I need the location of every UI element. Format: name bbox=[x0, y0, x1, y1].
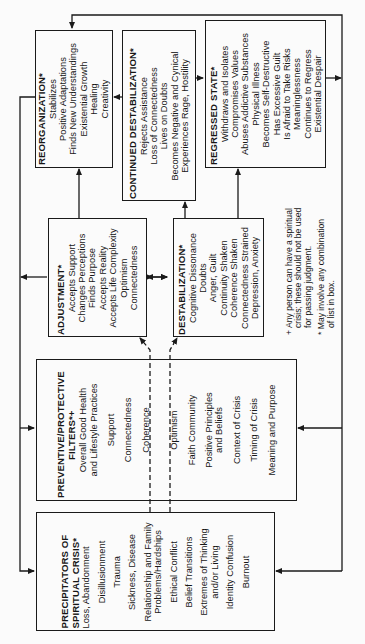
list-item: Ethical Conflict bbox=[169, 515, 179, 628]
list-item: Becomes Self-Destructive bbox=[260, 23, 270, 165]
list-item: Compromises Values bbox=[229, 23, 239, 165]
list-item: Lives on Doubts bbox=[159, 33, 169, 199]
star-note-line2: of list in box. bbox=[327, 165, 336, 335]
list-item: Faith Community bbox=[187, 362, 197, 498]
destabilization-box: DESTABILIZATION* Cognitive Dissonance Do… bbox=[173, 218, 264, 337]
list-item: Positive Principlesand Beliefs bbox=[204, 362, 225, 498]
list-item: Cognitive Dissonance bbox=[187, 221, 197, 335]
list-item: Changes Perceptions bbox=[77, 221, 87, 335]
list-item: Continuity Shaken bbox=[219, 221, 229, 335]
reorganization-title: REORGANIZATION* bbox=[37, 33, 48, 165]
adjustment-title: ADJUSTMENT* bbox=[56, 221, 67, 335]
list-item: Burnout bbox=[241, 515, 251, 628]
regressed-state-box: REGRESSED STATE* Withdraws and Isolates … bbox=[205, 20, 326, 168]
list-item: Meaninglessness bbox=[292, 23, 302, 165]
list-item: Finds Purpose bbox=[87, 221, 97, 335]
list-item: Is Afraid to Take Risks bbox=[281, 23, 291, 165]
list-item: Positive Adaptations bbox=[58, 33, 68, 165]
reorganization-box: REORGANIZATION* Stabilizes Positive Adap… bbox=[35, 30, 113, 168]
list-item: Doubts bbox=[198, 221, 208, 335]
list-item: Withdraws and Isolates bbox=[219, 23, 229, 165]
footnotes: + Any person can have a spiritual crisis… bbox=[285, 165, 336, 335]
list-item: Loss of Connectedness bbox=[149, 33, 159, 199]
precipitators-title-line2: SPIRITUAL CRISIS* bbox=[70, 537, 81, 628]
regressed-state-title: REGRESSED STATE* bbox=[208, 23, 219, 165]
precipitators-title: PRECIPITATORS OFSPIRITUAL CRISIS* bbox=[60, 515, 81, 628]
list-item: Support bbox=[106, 362, 116, 498]
filters-title: PREVENTIVE/PROTECTIVEFILTERS*+ bbox=[56, 362, 77, 498]
list-item: Disillusionment bbox=[97, 515, 107, 628]
list-item: Optimism bbox=[118, 221, 128, 335]
list-item: Extremes of Thinkingand/or Living bbox=[199, 515, 220, 628]
continued-destabilization-box: CONTINUED DESTABILIZATION* Rejects Assis… bbox=[122, 30, 196, 201]
list-item: Creativity bbox=[100, 33, 110, 165]
filters-title-line2: FILTERS*+ bbox=[66, 411, 77, 499]
list-item: Existential Growth bbox=[79, 33, 89, 165]
list-item: Meaning and Purpose bbox=[267, 362, 277, 498]
list-item: Connectedness bbox=[123, 362, 133, 498]
list-item: Relationship and FamilyProblems/Hardship… bbox=[143, 515, 164, 628]
destabilization-title: DESTABILIZATION* bbox=[177, 221, 188, 335]
list-item: Context of Crisis bbox=[232, 362, 242, 498]
list-item: Belief Transitions bbox=[184, 515, 194, 628]
list-item: Healing bbox=[90, 33, 100, 165]
list-item: Becomes Negative and Cynical bbox=[170, 33, 180, 199]
list-item: Abuses Addictive Substances bbox=[240, 23, 250, 165]
list-item: Coherence bbox=[141, 362, 151, 498]
continued-destabilization-title: CONTINUED DESTABILIZATION* bbox=[128, 33, 139, 199]
list-item: Accepts Support bbox=[66, 221, 76, 335]
list-item: Trauma bbox=[112, 515, 122, 628]
list-item: Continues to Regress bbox=[302, 23, 312, 165]
list-item: Depression, Anxiety bbox=[250, 221, 260, 335]
precipitators-title-line1: PRECIPITATORS OF bbox=[59, 534, 70, 628]
list-item: Rejects Assistance bbox=[138, 33, 148, 199]
list-item: Loss, Abandonment bbox=[81, 515, 91, 628]
filters-title-line1: PREVENTIVE/PROTECTIVE bbox=[55, 371, 66, 498]
list-item: Finds New Understandings bbox=[69, 33, 79, 165]
list-item: Connectedness bbox=[129, 221, 139, 335]
preventive-protective-filters-box: PREVENTIVE/PROTECTIVEFILTERS*+ Overall G… bbox=[36, 359, 297, 501]
plus-note-line3: for passing judgment. bbox=[304, 165, 313, 335]
list-item: Physical Illness bbox=[250, 23, 260, 165]
list-item: Optimism bbox=[169, 362, 179, 498]
list-item: Identity Confusion bbox=[225, 515, 235, 628]
precipitators-box: PRECIPITATORS OFSPIRITUAL CRISIS* Loss, … bbox=[36, 512, 275, 631]
list-item: Has Excessive Guilt bbox=[271, 23, 281, 165]
adjustment-box: ADJUSTMENT* Accepts Support Changes Perc… bbox=[48, 218, 147, 337]
list-item: Experiences Rage, Hostility bbox=[180, 33, 190, 199]
list-item: Connectedness Strained bbox=[239, 221, 249, 335]
list-item: Stabilizes bbox=[48, 33, 58, 165]
list-item: Accepts Reality bbox=[98, 221, 108, 335]
list-item: Timing of Crisis bbox=[249, 362, 259, 498]
list-item: Accepts Life Complexity bbox=[108, 221, 118, 335]
list-item: Sickness, Disease bbox=[127, 515, 137, 628]
list-item: Existential Despair bbox=[312, 23, 322, 165]
list-item: Anger, Guilt bbox=[208, 221, 218, 335]
list-item: Coherence Shaken bbox=[229, 221, 239, 335]
list-item: Overall Good Healthand Lifestyle Practic… bbox=[78, 362, 99, 498]
